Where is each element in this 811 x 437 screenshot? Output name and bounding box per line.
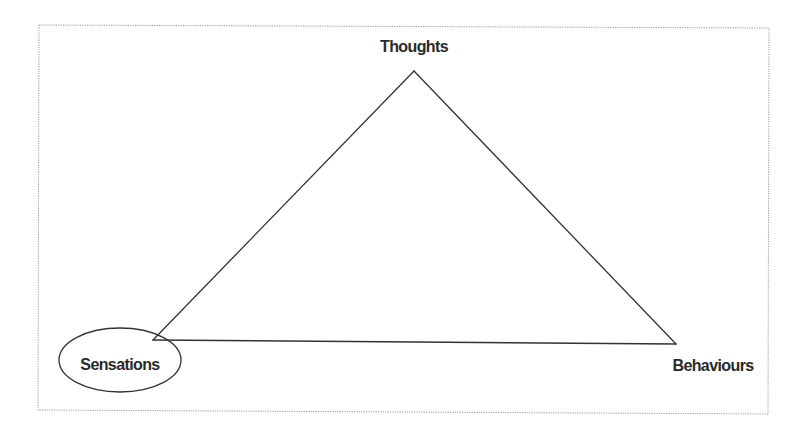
- triangle-diagram: Thoughts Sensations Behaviours: [0, 0, 811, 437]
- edge-thoughts-sensations: [153, 71, 414, 340]
- edge-thoughts-behaviours: [414, 71, 676, 344]
- node-label-sensations: Sensations: [80, 356, 160, 373]
- edge-sensations-behaviours: [153, 340, 676, 344]
- node-label-thoughts: Thoughts: [380, 38, 449, 55]
- node-label-behaviours: Behaviours: [672, 357, 754, 374]
